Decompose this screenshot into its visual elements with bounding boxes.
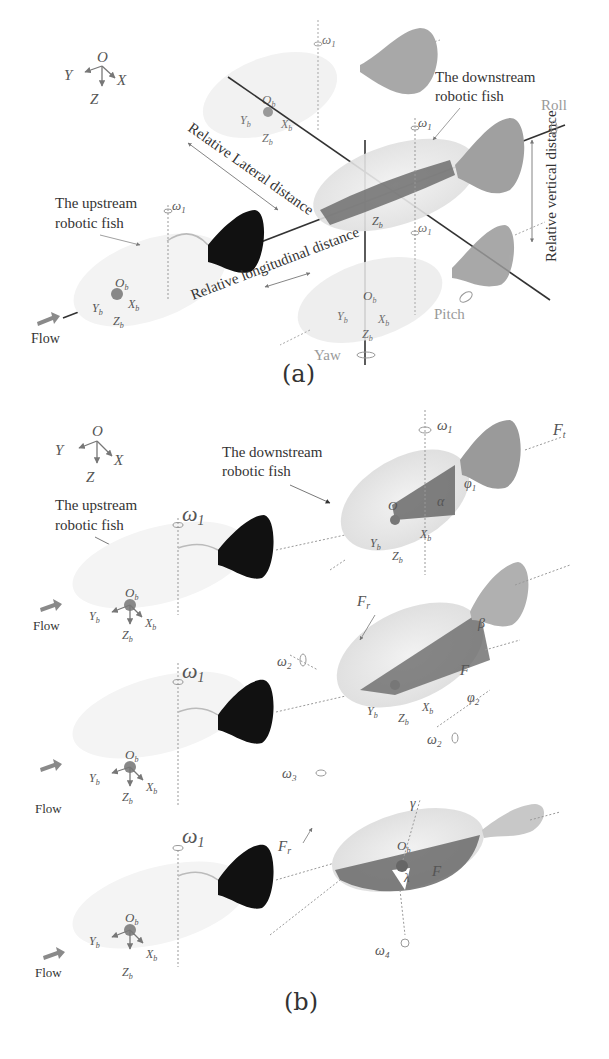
flow-arrow-a: Flow [31,312,61,346]
svg-text:Fr: Fr [277,838,291,856]
caption-b: (b) [284,988,318,1016]
svg-text:Y: Y [55,442,65,458]
svg-text:Zb: Zb [392,549,403,565]
svg-text:The downstream: The downstream [222,444,323,460]
pitch-indicator: Pitch [434,290,474,322]
svg-text:α: α [437,494,445,509]
svg-text:Ft: Ft [552,421,566,440]
svg-text:ω1: ω1 [437,417,453,435]
svg-text:Xb: Xb [144,616,156,632]
svg-text:Yb: Yb [89,609,100,625]
global-frame-a: O Y X Z [64,49,127,107]
svg-text:Xb: Xb [145,947,157,963]
svg-text:Pitch: Pitch [434,306,465,322]
svg-text:robotic fish: robotic fish [222,463,291,479]
svg-text:Yaw: Yaw [314,347,341,363]
svg-text:γ: γ [410,796,416,811]
svg-text:ω1: ω1 [172,198,186,215]
svg-text:Xb: Xb [421,700,433,716]
global-frame-b: O Y X Z [55,423,124,485]
svg-text:Zb: Zb [122,790,133,806]
svg-text:Fr: Fr [356,593,370,611]
svg-text:ω2: ω2 [277,654,292,671]
svg-text:F: F [459,662,470,678]
svg-text:Xb: Xb [145,780,157,796]
panel-b: O Y X Z The upstream robotic fish The do… [33,410,570,1016]
svg-text:Flow: Flow [31,331,61,346]
svg-text:ω1: ω1 [182,501,205,528]
svg-text:Roll: Roll [541,97,567,113]
svg-text:ω1: ω1 [182,658,205,685]
svg-text:λ: λ [403,870,410,885]
svg-text:ω4: ω4 [375,943,390,960]
svg-text:O: O [92,423,103,439]
svg-text:Flow: Flow [35,801,62,816]
svg-text:Z: Z [86,469,95,485]
svg-text:X: X [113,452,124,468]
downstream-fish-b3: Ob γ λ F ω3 Fr ω4 [270,766,560,960]
robotic-fish-figure: O Y X Z ω1 Ob Yb Xb Zb [0,0,609,1059]
svg-text:O: O [388,498,398,513]
upstream-fish-b2: ω1 Ob Yb Xb Zb Flow [35,655,350,816]
svg-text:The upstream: The upstream [55,195,137,211]
caption-a: (a) [282,360,315,388]
downstream-fish-b2: Fr ω2 β F φ2 ω2 Yb Xb Zb [277,562,570,749]
svg-text:Zb: Zb [398,711,409,727]
svg-text:ω2: ω2 [427,732,442,749]
svg-text:ω3: ω3 [282,766,297,783]
svg-text:O: O [97,49,108,65]
svg-text:Flow: Flow [35,965,62,980]
svg-text:Yb: Yb [89,771,100,787]
svg-text:robotic fish: robotic fish [55,215,124,231]
svg-text:F: F [431,863,442,879]
svg-text:X: X [116,72,127,88]
svg-text:ω1: ω1 [418,220,432,237]
svg-text:β: β [477,616,485,631]
ghost-fish-top: ω1 Ob Yb Xb Zb [191,20,440,155]
svg-text:The downstream: The downstream [435,69,536,85]
svg-text:Flow: Flow [33,618,60,633]
svg-text:ω1: ω1 [418,115,432,132]
svg-text:robotic fish: robotic fish [435,88,504,104]
yaw-indicator: Yaw [314,347,375,363]
vertical-distance: Relative vertical distance [532,110,559,262]
svg-text:Z: Z [90,91,99,107]
svg-text:Zb: Zb [122,628,133,644]
svg-text:Y: Y [64,67,74,83]
downstream-fish-b1: ω1 Ft φ1 α O Yb Xb Zb [323,410,565,575]
svg-text:Zb: Zb [122,965,133,981]
panel-a: O Y X Z ω1 Ob Yb Xb Zb [31,20,567,388]
svg-text:robotic fish: robotic fish [55,517,124,533]
svg-text:The upstream: The upstream [55,497,137,513]
omega-label: ω1 [322,32,336,49]
upstream-fish-b3: ω1 Ob Yb Xb Zb Flow [35,823,345,981]
svg-text:ω1: ω1 [182,823,205,850]
